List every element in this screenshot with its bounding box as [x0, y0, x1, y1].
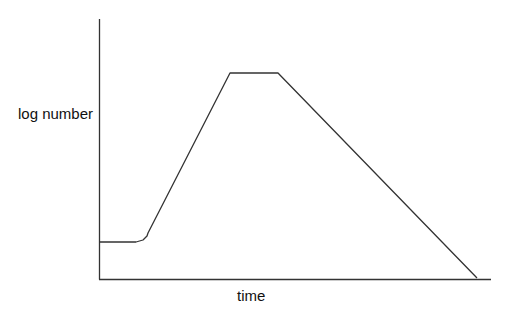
growth-curve-chart [0, 0, 511, 315]
y-axis-label: log number [18, 105, 93, 122]
x-axis-label: time [237, 287, 265, 304]
growth-curve-line [99, 73, 477, 278]
